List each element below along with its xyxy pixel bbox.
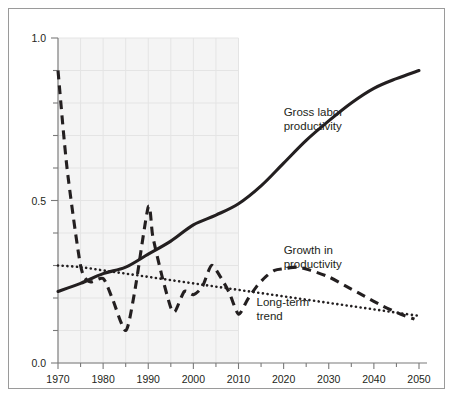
annotation-gross-labor-productivity: Gross labor: [284, 106, 344, 118]
x-axis-ticks: [58, 363, 419, 369]
annotation-long-term-trend: Long-term: [257, 296, 309, 308]
y-axis-tick-labels: 0.00.51.0: [31, 32, 46, 369]
figure-border: 197019801990200020102020203020402050 0.0…: [8, 8, 445, 389]
x-tick-label: 2000: [182, 373, 206, 385]
x-tick-label: 2040: [362, 373, 386, 385]
y-tick-label: 0.0: [31, 357, 46, 369]
annotation-gross-labor-productivity: productivity: [284, 120, 342, 132]
x-tick-label: 2010: [227, 373, 251, 385]
series-annotations: Gross laborproductivityGrowth inproducti…: [257, 106, 344, 322]
x-tick-label: 1990: [137, 373, 161, 385]
y-tick-label: 0.5: [31, 195, 46, 207]
y-axis-ticks: [51, 38, 58, 363]
figure-root: 197019801990200020102020203020402050 0.0…: [0, 0, 455, 412]
x-tick-label: 2020: [272, 373, 296, 385]
figure-caption: [10, 398, 450, 412]
x-tick-label: 2030: [317, 373, 341, 385]
y-tick-label: 1.0: [31, 32, 46, 44]
x-tick-label: 1970: [46, 373, 70, 385]
x-axis-tick-labels: 197019801990200020102020203020402050: [46, 373, 431, 385]
x-tick-label: 1980: [91, 373, 115, 385]
annotation-growth-in-productivity: Growth in: [284, 244, 333, 256]
annotation-growth-in-productivity: productivity: [284, 258, 342, 270]
line-chart: 197019801990200020102020203020402050 0.0…: [9, 9, 444, 388]
annotation-long-term-trend: trend: [257, 310, 283, 322]
x-tick-label: 2050: [407, 373, 431, 385]
